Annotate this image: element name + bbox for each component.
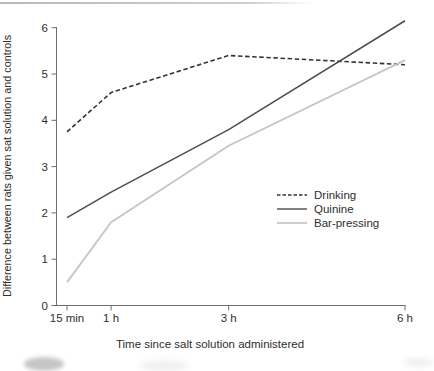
y-axis-title: Difference between rats given sat soluti… bbox=[1, 34, 13, 297]
legend-item-bar-pressing: Bar-pressing bbox=[276, 216, 379, 230]
y-tick-label: 0 bbox=[42, 300, 48, 312]
light-line-swatch-icon bbox=[276, 216, 308, 230]
x-axis-ticks: 15 min1 h3 h6 h bbox=[50, 306, 413, 325]
y-tick-label: 4 bbox=[42, 114, 49, 126]
dashed-line-swatch-icon bbox=[276, 188, 308, 202]
x-tick-label: 3 h bbox=[221, 312, 237, 324]
legend-label: Drinking bbox=[314, 189, 356, 201]
legend-item-quinine: Quinine bbox=[276, 202, 379, 216]
series-line-drinking bbox=[67, 55, 405, 131]
solid-line-swatch-icon bbox=[276, 202, 308, 216]
legend-label: Quinine bbox=[314, 203, 354, 215]
legend-label: Bar-pressing bbox=[314, 217, 379, 229]
y-tick-label: 3 bbox=[42, 161, 48, 173]
legend-item-drinking: Drinking bbox=[276, 188, 379, 202]
y-tick-label: 1 bbox=[42, 253, 48, 265]
data-series bbox=[67, 21, 405, 283]
x-axis-title: Time since salt solution administered bbox=[116, 338, 304, 350]
series-line-bar-pressing bbox=[67, 60, 405, 282]
legend: Drinking Quinine Bar-pressing bbox=[276, 188, 379, 230]
y-tick-label: 6 bbox=[42, 22, 48, 34]
y-tick-label: 5 bbox=[42, 68, 48, 80]
x-tick-label: 15 min bbox=[50, 312, 85, 324]
y-tick-label: 2 bbox=[42, 207, 48, 219]
x-tick-label: 6 h bbox=[397, 312, 413, 324]
y-axis-ticks: 0123456 bbox=[42, 22, 57, 312]
x-tick-label: 1 h bbox=[103, 312, 119, 324]
